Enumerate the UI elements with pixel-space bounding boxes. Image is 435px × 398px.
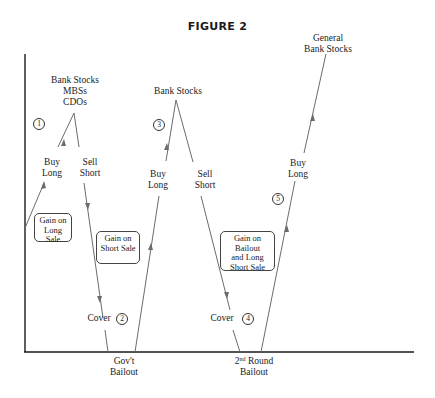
trend-line-down-1c	[105, 330, 108, 352]
arrow-down-icon	[97, 296, 102, 303]
cover-label-1: Cover	[84, 313, 114, 324]
peak-3-line-2: Bank Stocks	[300, 44, 356, 55]
peak-1-line-2: MBSs	[48, 86, 102, 97]
long-text: Long	[38, 168, 66, 179]
trend-line-down-2c	[233, 330, 240, 352]
peak-3-label: General Bank Stocks	[300, 33, 356, 55]
buy-text: Buy	[38, 157, 66, 168]
arrow-up-icon	[148, 243, 153, 250]
round-word: Round	[248, 356, 273, 366]
gain-short-sale-box: Gain on Short Sale	[96, 231, 140, 264]
buy-text: Buy	[144, 169, 172, 180]
step-5-circle: 5	[272, 193, 284, 205]
long-text: Long	[144, 180, 172, 191]
govt-text: Gov't	[104, 356, 144, 367]
buy-long-label-1: Buy Long	[38, 157, 66, 179]
peak-3-line-1: General	[300, 33, 356, 44]
diagram-canvas	[0, 0, 435, 398]
sell-text: Sell	[75, 157, 105, 168]
peak-1-line-1: Bank Stocks	[48, 75, 102, 86]
arrow-up-icon	[41, 181, 46, 189]
bailout-text: Bailout	[226, 367, 282, 378]
buy-long-label-3: Buy Long	[284, 158, 312, 180]
buy-long-label-2: Buy Long	[144, 169, 172, 191]
step-1-circle: 1	[33, 118, 45, 130]
trend-line-up-3b	[304, 54, 326, 153]
arrowheads	[41, 114, 315, 303]
sell-short-label-1: Sell Short	[75, 157, 105, 179]
trend-line-down-2a	[176, 100, 193, 162]
box-line: Gain on Bailout	[223, 234, 272, 253]
peak-1-label: Bank Stocks MBSs CDOs	[48, 75, 102, 108]
cover-label-2: Cover	[207, 313, 237, 324]
step-3-circle: 3	[153, 119, 165, 131]
sell-short-label-2: Sell Short	[190, 169, 220, 191]
trend-line-up-1b	[58, 113, 74, 147]
sell-text: Sell	[190, 169, 220, 180]
peak-1-line-3: CDOs	[48, 97, 102, 108]
peak-2-label: Bank Stocks	[148, 86, 208, 97]
trend-line-up-2a	[135, 196, 159, 352]
short-text: Short	[75, 168, 105, 179]
ordinal-suffix: nd	[240, 356, 246, 362]
trend-line-down-1a	[74, 113, 79, 147]
second-round-text: 2nd Round	[226, 356, 282, 367]
box-line: Long Sale	[37, 226, 69, 245]
buy-text: Buy	[284, 158, 312, 169]
trend-line-up-2b	[166, 100, 176, 161]
long-text: Long	[284, 169, 312, 180]
gain-bailout-box: Gain on Bailout and Long Short Sale	[220, 231, 275, 271]
box-line: Short Sale	[99, 244, 137, 254]
govt-bailout-label: Gov't Bailout	[104, 356, 144, 378]
gain-long-sale-box: Gain on Long Sale	[34, 213, 72, 242]
second-round-bailout-label: 2nd Round Bailout	[226, 356, 282, 378]
bailout-text: Bailout	[104, 367, 144, 378]
short-text: Short	[190, 180, 220, 191]
box-line: Short Sale	[223, 263, 272, 273]
step-2-circle: 2	[116, 313, 128, 325]
step-4-circle: 4	[242, 313, 254, 325]
